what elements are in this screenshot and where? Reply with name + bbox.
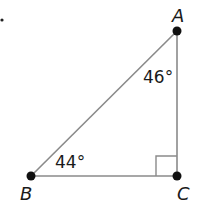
point-b bbox=[27, 172, 36, 181]
vertex-label-b: B bbox=[20, 183, 32, 204]
vertex-label-c: C bbox=[177, 183, 190, 204]
angle-label-b: 44° bbox=[55, 152, 85, 172]
vertex-label-a: A bbox=[171, 5, 184, 26]
triangle-diagram: A B C 46° 44° bbox=[0, 0, 203, 205]
angle-label-a: 46° bbox=[143, 67, 173, 87]
point-c bbox=[173, 172, 182, 181]
point-a bbox=[173, 27, 182, 36]
side-ab bbox=[31, 31, 177, 176]
stray-dot bbox=[0, 18, 3, 21]
triangle-sides bbox=[31, 31, 177, 176]
